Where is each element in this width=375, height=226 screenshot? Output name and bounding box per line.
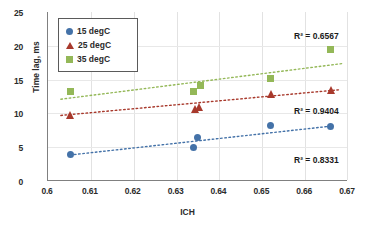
y-tick-5: 5 bbox=[0, 143, 23, 153]
triangle-data-point bbox=[327, 86, 335, 94]
circle-data-point bbox=[327, 123, 334, 130]
trendline-15-degC bbox=[70, 126, 333, 155]
circle-data-point bbox=[67, 151, 74, 158]
square-marker-icon bbox=[66, 56, 73, 63]
x-tick-6: 0.66 bbox=[284, 186, 324, 196]
gridline-horizontal bbox=[48, 147, 347, 148]
scatter-chart: 25 20 15 10 5 0 Time lag, ms 0.6 0.61 0.… bbox=[0, 0, 375, 226]
y-tick-0: 0 bbox=[0, 177, 23, 187]
y-axis-label: Time lag, ms bbox=[31, 27, 41, 107]
y-tick-15: 15 bbox=[0, 76, 23, 86]
y-tick-20: 20 bbox=[0, 42, 23, 52]
r2-annotation-15-degC: R² = 0.8331 bbox=[294, 155, 339, 165]
x-tick-4: 0.64 bbox=[198, 186, 238, 196]
square-data-point bbox=[190, 88, 197, 95]
square-data-point bbox=[197, 82, 204, 89]
x-tick-1: 0.61 bbox=[70, 186, 110, 196]
legend-item-35-degC[interactable]: 35 degC bbox=[66, 52, 131, 66]
gridline-horizontal bbox=[48, 80, 347, 81]
y-tick-10: 10 bbox=[0, 109, 23, 119]
r2-annotation-35-degC: R² = 0.6567 bbox=[294, 31, 339, 41]
x-axis-label: ICH bbox=[0, 207, 375, 217]
gridline-vertical bbox=[219, 12, 220, 180]
gridline-vertical bbox=[347, 12, 348, 180]
triangle-data-point bbox=[66, 111, 74, 119]
x-tick-0: 0.6 bbox=[27, 186, 67, 196]
square-data-point bbox=[67, 88, 74, 95]
circle-data-point bbox=[194, 134, 201, 141]
square-data-point bbox=[327, 46, 334, 53]
gridline-vertical bbox=[262, 12, 263, 180]
circle-data-point bbox=[267, 122, 274, 129]
y-tick-25: 25 bbox=[0, 8, 23, 18]
triangle-data-point bbox=[267, 90, 275, 98]
legend-label: 25 degC bbox=[78, 40, 111, 50]
circle-data-point bbox=[190, 144, 197, 151]
circle-marker-icon bbox=[66, 28, 73, 35]
legend: 15 degC 25 degC 35 degC bbox=[58, 18, 138, 72]
r2-annotation-25-degC: R² = 0.9404 bbox=[294, 106, 339, 116]
legend-item-25-degC[interactable]: 25 degC bbox=[66, 38, 131, 52]
x-tick-7: 0.67 bbox=[327, 186, 367, 196]
legend-label: 15 degC bbox=[77, 26, 110, 36]
triangle-data-point bbox=[195, 103, 203, 111]
triangle-marker-icon bbox=[66, 42, 74, 49]
gridline-vertical bbox=[177, 12, 178, 180]
legend-label: 35 degC bbox=[77, 54, 110, 64]
x-tick-5: 0.65 bbox=[241, 186, 281, 196]
legend-item-15-degC[interactable]: 15 degC bbox=[66, 24, 131, 38]
x-tick-2: 0.62 bbox=[113, 186, 153, 196]
square-data-point bbox=[267, 75, 274, 82]
x-tick-3: 0.63 bbox=[156, 186, 196, 196]
